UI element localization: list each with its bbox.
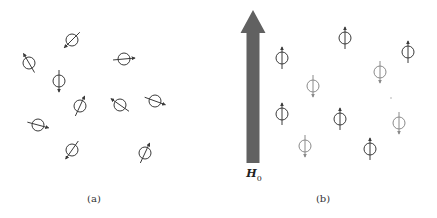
stray-dot — [390, 97, 392, 99]
dipole-icon — [64, 32, 80, 48]
dipole-icon — [402, 41, 414, 63]
dipole-icon — [364, 138, 376, 160]
panel-b-aligned-dipoles — [241, 10, 415, 163]
dipole-icon — [145, 95, 166, 107]
dipole-icon — [27, 119, 48, 131]
dipole-icon — [139, 143, 151, 163]
dipole-icon — [276, 47, 288, 69]
dipole-icon — [66, 141, 79, 159]
dipole-diagram — [0, 0, 437, 218]
dipole-icon — [374, 61, 386, 83]
applied-field-arrow-icon — [241, 10, 266, 163]
panel-a-caption: (a) — [87, 193, 101, 204]
field-symbol: H — [246, 167, 256, 180]
dipole-icon — [307, 75, 319, 97]
dipole-icon — [334, 108, 346, 130]
panel-b-caption: (b) — [316, 193, 330, 204]
dipole-icon — [113, 53, 135, 65]
dipole-icon — [53, 70, 65, 92]
dipole-icon — [393, 112, 405, 134]
field-label-h0: H0 — [246, 167, 262, 182]
dipole-icon — [74, 96, 86, 116]
dipole-icon — [339, 27, 351, 49]
field-subscript: 0 — [257, 174, 262, 183]
dipole-icon — [299, 135, 311, 157]
dipole-icon — [23, 53, 35, 72]
panel-a-random-dipoles — [23, 32, 165, 163]
dipole-icon — [276, 103, 288, 125]
dipole-icon — [111, 99, 129, 112]
